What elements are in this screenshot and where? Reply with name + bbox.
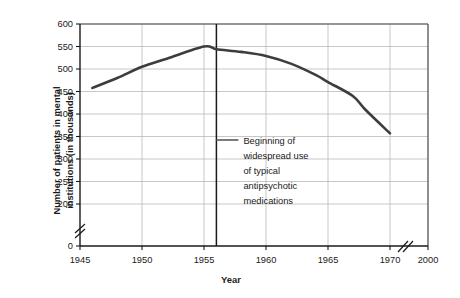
annotation-line: of typical: [243, 166, 280, 176]
chart-figure: © Cengage Learning 2013 Number of patien…: [0, 0, 460, 298]
annotation-line: Beginning of: [243, 136, 295, 146]
x-tick-label: 1955: [194, 255, 215, 265]
x-tick-label: 1965: [318, 255, 339, 265]
x-tick-label: 1960: [256, 255, 277, 265]
annotation-line: antipsychotic: [243, 181, 297, 191]
x-tick-labels: 1945195019551960196519702000: [70, 255, 439, 265]
y-axis-title-line1: Number of patients in mental: [52, 86, 62, 214]
annotation-line: widespread use: [242, 151, 308, 161]
x-tick-label: 2000: [418, 255, 439, 265]
x-axis-title: Year: [221, 274, 241, 285]
y-axis-title: Number of patients in mental institution…: [51, 46, 76, 256]
y-tick-label: 600: [57, 19, 73, 29]
x-tick-label: 1950: [132, 255, 153, 265]
y-axis-title-line2: institutions (in thousands): [63, 46, 76, 256]
x-tick-label: 1945: [70, 255, 91, 265]
annotation-line: medications: [243, 196, 293, 206]
x-tick-label: 1970: [380, 255, 401, 265]
